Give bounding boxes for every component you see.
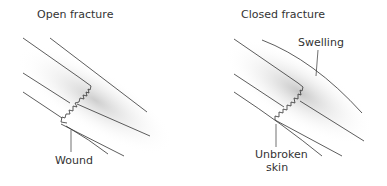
closed-fracture-panel: Closed fracture Swelling Unbroken skin xyxy=(194,0,387,186)
open-fracture-illustration xyxy=(0,0,193,186)
swelling-label: Swelling xyxy=(298,36,344,49)
open-fracture-panel: Open fracture Wound xyxy=(0,0,193,186)
skin-label: skin xyxy=(266,161,288,174)
wound-label: Wound xyxy=(55,154,93,167)
unbroken-label: Unbroken xyxy=(255,148,308,161)
swelling-shade xyxy=(3,27,187,173)
